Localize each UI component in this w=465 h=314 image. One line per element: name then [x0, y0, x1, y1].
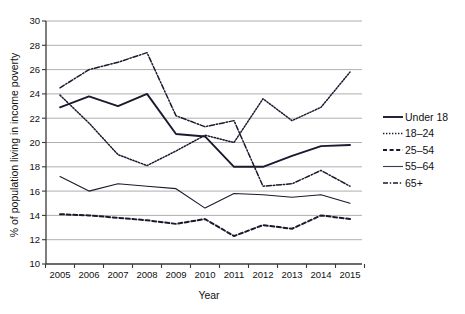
- y-tick-labels: 1012141618202224262830: [29, 15, 40, 269]
- x-tick-label: 2013: [281, 269, 302, 280]
- series-group: [60, 53, 350, 236]
- series-line-under-18: [60, 94, 350, 167]
- x-tick-label: 2007: [107, 269, 128, 280]
- x-tick-label: 2008: [136, 269, 157, 280]
- y-tick-label: 14: [29, 210, 40, 221]
- x-tick-label: 2005: [49, 269, 70, 280]
- y-tick-label: 18: [29, 161, 40, 172]
- x-tick-label: 2011: [224, 269, 244, 280]
- y-tick-label: 28: [29, 40, 40, 51]
- y-tick-label: 30: [29, 15, 40, 26]
- series-line-25-54: [60, 214, 350, 236]
- series-line-65: [60, 53, 350, 187]
- x-tick-label: 2009: [165, 269, 186, 280]
- y-tick-label: 24: [29, 88, 40, 99]
- legend-item-label: 18–24: [405, 127, 434, 139]
- legend-item-label: 25–54: [405, 144, 434, 156]
- legend: Under 1818–2425–5455–6465+: [383, 111, 448, 189]
- tickmarks-group: [42, 21, 365, 268]
- x-tick-label: 2015: [339, 269, 360, 280]
- x-tick-label: 2012: [252, 269, 273, 280]
- legend-item-label: 65+: [405, 177, 423, 189]
- chart-canvas: 1012141618202224262830 20052006200720082…: [0, 0, 465, 314]
- x-tick-labels: 2005200620072008200920102011201220132014…: [49, 269, 360, 280]
- y-axis-title: % of population living in income poverty: [8, 52, 20, 237]
- legend-item-label: 55–64: [405, 160, 434, 172]
- x-axis-title: Year: [198, 289, 220, 301]
- x-tick-label: 2014: [310, 269, 331, 280]
- y-tick-label: 22: [29, 113, 40, 124]
- legend-item-label: Under 18: [405, 111, 448, 123]
- y-tick-label: 12: [29, 234, 40, 245]
- line-chart: 1012141618202224262830 20052006200720082…: [0, 0, 465, 314]
- y-tick-label: 16: [29, 186, 40, 197]
- series-line-55-64: [60, 177, 350, 209]
- x-tick-label: 2010: [194, 269, 215, 280]
- y-tick-label: 20: [29, 137, 40, 148]
- x-tick-label: 2006: [78, 269, 99, 280]
- y-tick-label: 26: [29, 64, 40, 75]
- y-tick-label: 10: [29, 258, 40, 269]
